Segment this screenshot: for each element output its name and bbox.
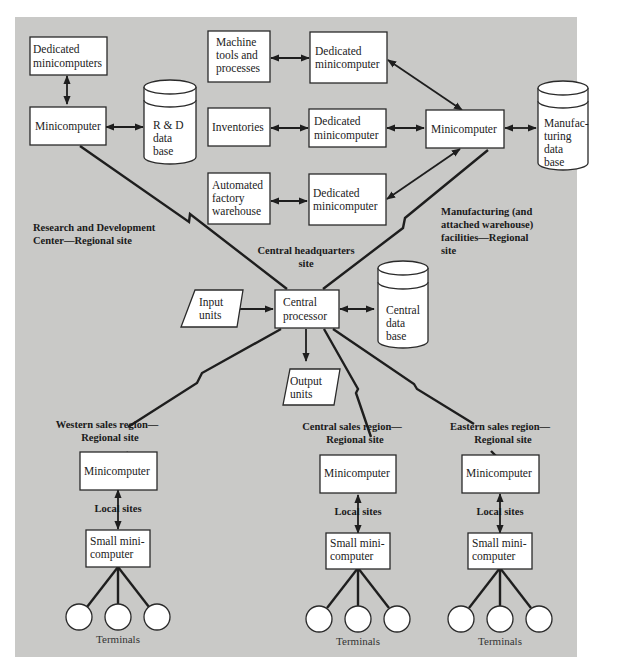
svg-text:Minicomputer: Minicomputer [84,465,150,478]
svg-text:Central: Central [283,296,317,308]
svg-text:Central headquarters: Central headquarters [257,245,354,256]
svg-text:turing: turing [544,130,572,143]
svg-text:Machine: Machine [216,36,256,48]
svg-text:Center—Regional site: Center—Regional site [33,235,132,246]
svg-text:data: data [153,132,172,144]
svg-text:Small mini-: Small mini- [90,535,145,547]
svg-text:computer: computer [472,550,516,563]
svg-text:Small mini-: Small mini- [472,537,527,549]
eastern-small-minicomputer-box: Small mini- computer [468,533,532,569]
central-processor-box: Central processor [275,290,339,328]
terminal-icon [345,606,371,632]
svg-text:Regional site: Regional site [326,434,384,445]
svg-text:Manufacturing (and: Manufacturing (and [441,206,532,218]
terminal-icon [144,604,170,630]
svg-text:warehouse: warehouse [212,205,261,217]
machine-tools-box: Machine tools and processes [208,31,270,82]
western-minicomputer-box: Minicomputer [80,452,157,490]
svg-text:Terminals: Terminals [96,633,140,645]
svg-text:Regional site: Regional site [474,434,532,445]
svg-text:Dedicated: Dedicated [313,187,360,199]
svg-text:Small mini-: Small mini- [330,537,385,549]
svg-text:Dedicated: Dedicated [315,45,362,57]
svg-text:Minicomputer: Minicomputer [466,467,532,480]
svg-text:tools and: tools and [216,49,258,61]
central-database-cylinder: Central data base [378,261,428,348]
svg-text:site: site [298,258,314,269]
terminal-icon [487,606,513,632]
rd-database-cylinder: R & D data base [144,80,196,164]
terminal-icon [384,606,410,632]
svg-text:Research and Development: Research and Development [33,222,156,233]
eastern-local-sites-label: Local sites [477,506,524,517]
terminal-icon [526,606,552,632]
svg-text:Terminals: Terminals [336,635,380,647]
svg-text:Minicomputer: Minicomputer [324,467,390,480]
svg-text:Inventories: Inventories [212,121,264,133]
terminal-icon [66,604,92,630]
automated-warehouse-box: Automated factory warehouse [208,173,270,224]
svg-text:Manufac-: Manufac- [544,117,589,129]
svg-text:data: data [544,143,563,155]
svg-text:base: base [386,330,406,342]
svg-text:attached warehouse): attached warehouse) [441,219,534,231]
central-sales-minicomputer-box: Minicomputer [320,455,396,493]
svg-text:computer: computer [90,548,134,561]
svg-text:Regional site: Regional site [81,432,139,443]
svg-text:minicomputer: minicomputer [315,58,380,71]
network-diagram: Dedicated minicomputers Minicomputer R &… [0,0,619,671]
manufacturing-database-cylinder: Manufac- turing data base [538,81,589,170]
svg-text:Dedicated: Dedicated [33,43,80,55]
inventories-dedicated-minicomputer-box: Dedicated minicomputer [309,109,386,147]
svg-text:base: base [544,156,564,168]
svg-text:Eastern sales region—: Eastern sales region— [450,421,551,432]
svg-text:Input: Input [199,296,224,309]
inventories-box: Inventories [208,108,270,146]
rd-minicomputer-box: Minicomputer [30,107,106,145]
central-sales-local-sites-label: Local sites [335,506,382,517]
eastern-minicomputer-box: Minicomputer [462,455,539,493]
svg-text:units: units [199,309,222,321]
western-local-sites-label: Local sites [95,503,142,514]
terminal-icon [105,604,131,630]
western-small-minicomputer-box: Small mini- computer [86,530,150,567]
terminal-icon [306,606,332,632]
output-units-parallelogram: Output units [283,369,340,405]
svg-text:R & D: R & D [153,119,184,131]
warehouse-dedicated-minicomputer-box: Dedicated minicomputer [309,174,386,225]
svg-text:minicomputer: minicomputer [314,129,379,142]
rd-dedicated-minicomputers-box: Dedicated minicomputers [30,37,107,75]
svg-text:minicomputers: minicomputers [33,57,103,70]
svg-text:Central sales region—: Central sales region— [302,421,402,432]
svg-text:Western sales region—: Western sales region— [56,419,159,430]
svg-text:facilities—Regional: facilities—Regional [441,232,529,243]
svg-text:Automated: Automated [212,179,263,191]
manufacturing-minicomputer-box: Minicomputer [426,110,504,148]
svg-text:Output: Output [290,375,323,388]
svg-text:Terminals: Terminals [478,635,522,647]
svg-text:units: units [290,388,313,400]
svg-text:site: site [441,245,457,256]
svg-text:data: data [386,317,405,329]
svg-text:processor: processor [283,310,327,323]
central-sales-small-minicomputer-box: Small mini- computer [326,533,390,569]
svg-text:factory: factory [212,192,245,205]
svg-text:minicomputer: minicomputer [313,200,378,213]
svg-text:Central: Central [386,304,420,316]
svg-text:Minicomputer: Minicomputer [35,120,101,133]
svg-text:Minicomputer: Minicomputer [431,123,497,136]
svg-text:processes: processes [216,62,261,75]
svg-text:computer: computer [330,550,374,563]
svg-text:base: base [153,145,173,157]
svg-text:Dedicated: Dedicated [314,115,361,127]
machine-tools-dedicated-minicomputer-box: Dedicated minicomputer [310,32,387,83]
terminal-icon [448,606,474,632]
